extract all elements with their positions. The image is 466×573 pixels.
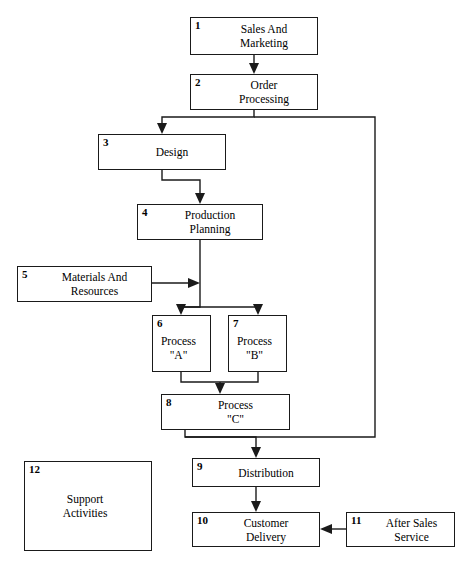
node-support-activities[interactable]: 12 Support Activities	[24, 461, 152, 551]
connector-design-to-production	[162, 170, 205, 204]
node-number: 6	[157, 317, 163, 329]
node-label: Order Processing	[191, 78, 317, 106]
node-number: 7	[233, 317, 239, 329]
node-label: Materials And Resources	[18, 270, 151, 298]
node-customer-delivery[interactable]: 10 Customer Delivery	[192, 512, 320, 547]
node-number: 12	[29, 463, 40, 475]
node-sales-and-marketing[interactable]: 1 Sales And Marketing	[190, 17, 318, 55]
node-label: Design	[99, 145, 225, 159]
node-design[interactable]: 3 Design	[98, 134, 226, 170]
node-process-c[interactable]: 8 Process "C"	[161, 394, 290, 430]
node-label: Process "A"	[153, 334, 210, 362]
connector-processes-to-process-c	[181, 372, 258, 394]
connector-distribution-to-delivery	[251, 487, 261, 512]
node-materials-and-resources[interactable]: 5 Materials And Resources	[17, 266, 152, 302]
node-production-planning[interactable]: 4 Production Planning	[137, 204, 263, 240]
connector-production-to-processes	[176, 240, 263, 315]
node-label: Production Planning	[138, 208, 262, 236]
node-label: Support Activities	[25, 492, 151, 520]
node-order-processing[interactable]: 2 Order Processing	[190, 74, 318, 110]
node-process-a[interactable]: 6 Process "A"	[152, 315, 211, 372]
connector-sales-to-order	[249, 55, 259, 74]
node-label: Process "C"	[162, 398, 289, 426]
node-process-b[interactable]: 7 Process "B"	[228, 315, 287, 372]
flowchart-canvas: 1 Sales And Marketing 2 Order Processing…	[0, 0, 466, 573]
node-distribution[interactable]: 9 Distribution	[192, 458, 320, 487]
connector-process-c-to-distribution	[185, 430, 261, 458]
node-label: After Sales Service	[347, 516, 454, 544]
node-after-sales-service[interactable]: 11 After Sales Service	[346, 512, 455, 547]
node-label: Sales And Marketing	[191, 22, 317, 50]
connector-after-sales-to-delivery	[320, 524, 346, 534]
connector-materials-to-spine	[152, 278, 200, 288]
node-label: Process "B"	[229, 334, 286, 362]
node-label: Distribution	[193, 466, 319, 480]
node-label: Customer Delivery	[193, 516, 319, 544]
connector-order-to-design	[157, 110, 254, 134]
